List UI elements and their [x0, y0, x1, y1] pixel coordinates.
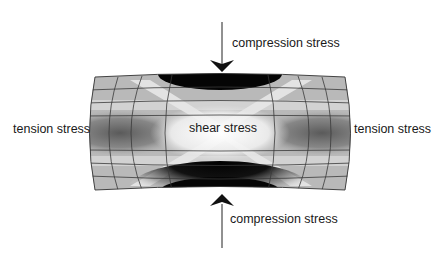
tension-stress-right-label: tension stress	[354, 122, 431, 136]
shear-stress-label: shear stress	[189, 121, 257, 135]
compression-stress-bottom-label: compression stress	[230, 212, 338, 226]
compression-arrow-top	[210, 22, 234, 72]
compression-stress-top-label: compression stress	[232, 36, 340, 50]
tension-stress-left-label: tension stress	[13, 122, 90, 136]
